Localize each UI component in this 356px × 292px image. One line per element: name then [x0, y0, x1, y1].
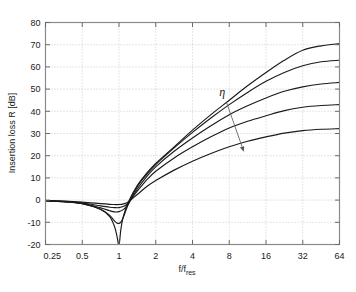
x-tick-label: 32: [298, 251, 308, 261]
y-axis-label: Insertion loss R [dB]: [7, 93, 17, 174]
y-tick-label: -10: [27, 218, 40, 228]
y-tick-label: 20: [30, 151, 40, 161]
x-tick-label: 64: [334, 251, 344, 261]
x-tick-label: 1: [116, 251, 121, 261]
eta-symbol-label: η: [219, 85, 225, 99]
y-tick-label: 0: [35, 195, 40, 205]
y-tick-label: 80: [30, 18, 40, 28]
x-tick-label: 16: [261, 251, 271, 261]
y-tick-label: 60: [30, 62, 40, 72]
y-tick-label: 30: [30, 129, 40, 139]
x-tick-label: 0.25: [44, 251, 62, 261]
insertion-loss-chart: 0.250.51248163264 -20-100102030405060708…: [0, 0, 356, 292]
y-tick-label: 10: [30, 173, 40, 183]
chart-figure: 0.250.51248163264 -20-100102030405060708…: [0, 0, 356, 292]
x-tick-label: 0.5: [76, 251, 89, 261]
y-tick-label: 70: [30, 40, 40, 50]
x-tick-label: 8: [227, 251, 232, 261]
y-tick-label: 40: [30, 107, 40, 117]
y-tick-label: -20: [27, 240, 40, 250]
y-tick-label: 50: [30, 84, 40, 94]
x-tick-label: 4: [190, 251, 195, 261]
x-tick-label: 2: [153, 251, 158, 261]
